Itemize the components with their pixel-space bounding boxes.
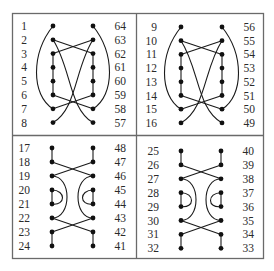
pin-label-left: 17 xyxy=(19,142,31,154)
pin-label-left: 1 xyxy=(21,20,27,32)
pin-label-left: 14 xyxy=(146,90,158,102)
wire xyxy=(83,190,94,204)
pin-label-left: 2 xyxy=(21,34,27,46)
pin-dot xyxy=(91,24,96,29)
pin-dot xyxy=(50,202,55,207)
pin-label-left: 6 xyxy=(21,89,27,101)
pin-label-right: 52 xyxy=(244,76,256,88)
pin-label-right: 64 xyxy=(115,20,127,32)
pin-dot xyxy=(91,79,96,84)
pin-dot xyxy=(179,190,184,195)
pin-label-left: 22 xyxy=(19,212,31,224)
pin-dot xyxy=(50,216,55,221)
pin-dot xyxy=(51,120,56,125)
pin-dot xyxy=(91,146,96,151)
pin-dot xyxy=(91,160,96,165)
pin-dot xyxy=(219,204,224,209)
pin-dot xyxy=(51,37,56,42)
pin-label-left: 9 xyxy=(151,21,157,33)
pin-dot xyxy=(219,218,224,223)
pin-dot xyxy=(51,51,56,56)
pin-label-right: 59 xyxy=(115,89,127,101)
pin-label-right: 44 xyxy=(115,198,127,210)
pin-dot xyxy=(91,37,96,42)
pin-label-right: 35 xyxy=(243,215,255,227)
pin-label-right: 41 xyxy=(115,240,127,252)
pin-label-right: 62 xyxy=(115,48,127,60)
panel-top-left: 164263362461560659758857 xyxy=(21,20,126,129)
pin-dot xyxy=(50,188,55,193)
pin-label-right: 34 xyxy=(243,228,255,240)
pin-label-right: 42 xyxy=(115,226,127,238)
pin-label-right: 37 xyxy=(243,187,255,199)
pin-label-right: 45 xyxy=(115,184,127,196)
pin-dot xyxy=(179,79,184,84)
pin-dot xyxy=(91,51,96,56)
pin-dot xyxy=(51,24,56,29)
pin-dot xyxy=(219,149,224,154)
pin-dot xyxy=(179,232,184,237)
pin-dot xyxy=(91,174,96,179)
pin-label-right: 48 xyxy=(115,142,127,154)
pin-label-left: 28 xyxy=(148,187,160,199)
pin-label-left: 5 xyxy=(21,75,27,87)
pin-label-right: 38 xyxy=(243,173,255,185)
wire xyxy=(181,193,192,207)
wire xyxy=(37,26,54,109)
wire xyxy=(206,179,221,221)
pin-label-left: 29 xyxy=(148,201,160,213)
pin-dot xyxy=(220,93,225,98)
pin-dot xyxy=(91,120,96,125)
pin-label-left: 26 xyxy=(148,159,160,171)
pin-label-left: 18 xyxy=(19,156,31,168)
pin-dot xyxy=(91,202,96,207)
pin-label-right: 55 xyxy=(244,35,256,47)
pin-dot xyxy=(91,188,96,193)
pin-label-right: 56 xyxy=(244,21,256,33)
wire xyxy=(211,193,222,207)
pin-dot xyxy=(219,246,224,251)
pin-dot xyxy=(50,146,55,151)
wire xyxy=(78,176,93,218)
pin-dot xyxy=(179,25,184,30)
wire xyxy=(181,179,196,221)
pin-label-right: 36 xyxy=(243,201,255,213)
pin-dot xyxy=(51,65,56,70)
pin-label-left: 7 xyxy=(21,103,27,115)
pin-connection-diagram: 164263362461560659758857 956105511541253… xyxy=(0,0,274,271)
pin-label-left: 19 xyxy=(19,170,31,182)
wire xyxy=(222,27,239,109)
pin-dot xyxy=(219,176,224,181)
pin-dot xyxy=(91,216,96,221)
pin-label-right: 40 xyxy=(243,145,255,157)
pin-label-left: 8 xyxy=(21,117,27,129)
pin-label-right: 51 xyxy=(244,90,256,102)
pin-dot xyxy=(220,79,225,84)
pin-label-left: 4 xyxy=(21,61,27,73)
pin-label-left: 3 xyxy=(21,48,27,60)
pin-label-right: 61 xyxy=(115,61,127,73)
pin-label-right: 47 xyxy=(115,156,127,168)
pin-dot xyxy=(179,149,184,154)
pin-label-left: 15 xyxy=(146,103,158,115)
pin-label-right: 53 xyxy=(244,62,256,74)
pin-dot xyxy=(220,52,225,57)
pin-label-left: 16 xyxy=(146,117,158,129)
pin-dot xyxy=(219,190,224,195)
pin-label-right: 39 xyxy=(243,159,255,171)
pin-label-left: 30 xyxy=(148,215,160,227)
pin-dot xyxy=(220,66,225,71)
pin-label-left: 25 xyxy=(148,145,160,157)
pin-label-left: 12 xyxy=(146,62,158,74)
pin-dot xyxy=(91,230,96,235)
pin-label-left: 21 xyxy=(19,198,31,210)
pin-dot xyxy=(50,160,55,165)
pin-label-right: 60 xyxy=(115,75,127,87)
wire xyxy=(165,27,182,109)
wire xyxy=(52,176,67,218)
pin-dot xyxy=(51,106,56,111)
pin-label-left: 23 xyxy=(19,226,31,238)
pin-dot xyxy=(50,230,55,235)
pin-label-left: 10 xyxy=(146,35,158,47)
pin-label-left: 27 xyxy=(148,173,160,185)
